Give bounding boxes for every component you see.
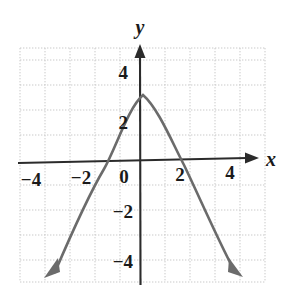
y-axis-arrowhead-icon — [135, 44, 146, 58]
graph-canvas: −4 −2 0 2 4 4 2 −2 −4 x y — [0, 0, 292, 290]
y-tick-label: −4 — [113, 251, 134, 272]
x-axis-line — [18, 158, 247, 163]
y-tick-label: −2 — [113, 201, 133, 222]
x-axis-arrowhead-icon — [245, 153, 259, 164]
parabola-graph-figure: −4 −2 0 2 4 4 2 −2 −4 x y — [0, 0, 292, 290]
y-tick-label: 4 — [119, 62, 129, 83]
y-axis-line — [140, 55, 141, 285]
x-tick-label: 4 — [225, 162, 235, 183]
x-axis-label: x — [265, 148, 276, 170]
y-tick-label: 2 — [119, 112, 129, 133]
x-tick-label: −2 — [71, 167, 91, 188]
y-axis — [135, 44, 146, 285]
x-axis — [18, 153, 259, 164]
x-tick-label: 0 — [119, 166, 129, 187]
x-tick-label: 2 — [175, 164, 185, 185]
curve-left-arrowhead-icon — [44, 258, 60, 278]
x-tick-labels: −4 −2 0 2 4 — [21, 162, 235, 190]
curve-right-arrowhead-icon — [228, 258, 243, 277]
x-tick-label: −4 — [21, 169, 42, 190]
y-axis-label: y — [134, 16, 145, 39]
